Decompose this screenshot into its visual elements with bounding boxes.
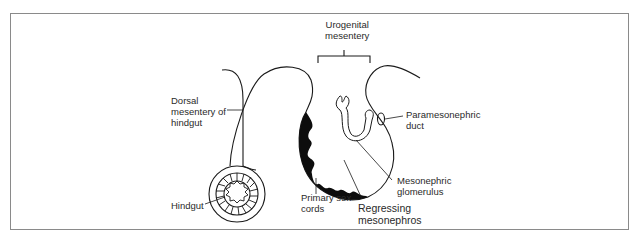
primary-sex-cords-label: Primary sex cords [301,192,351,214]
dorsal-mesentery-label: Dorsal mesentery of hindgut [171,95,226,128]
hindgut-label: Hindgut [171,200,204,211]
mesonephric-tubule [336,96,373,141]
primary-sex-cords-fill [299,112,368,200]
paramesonephric-duct-label: Paramesonephric duct [406,109,480,131]
mesonephric-glomerulus-label: Mesonephric glomerulus [397,175,451,197]
urogenital-mesentery-label: Urogenital mesentery [325,19,369,41]
hindgut-structure [209,166,265,222]
urogenital-bracket [318,50,370,63]
paramesonephric-duct-shape [378,113,385,125]
dorsal-mesentery [222,67,313,170]
regressing-mesonephros-label: Regressing mesonephros [358,202,422,226]
